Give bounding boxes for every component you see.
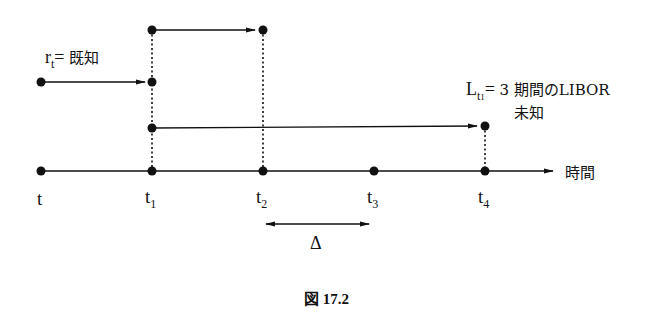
tick-sub: 1 — [150, 197, 156, 211]
tick-t2: t2 — [256, 186, 267, 208]
timeline-diagram — [0, 0, 670, 312]
point-t1-top — [148, 26, 157, 35]
interval-label: Δ — [310, 233, 322, 254]
point-t4-libor — [481, 122, 490, 131]
point-t4 — [481, 167, 490, 176]
libor-symbol: L — [466, 79, 477, 99]
point-t — [37, 167, 46, 176]
tick-sub: 4 — [483, 197, 489, 211]
point-t1-known — [148, 78, 157, 87]
libor-desc: 3 期間のLIBOR — [500, 81, 610, 99]
equals-sign: = — [485, 79, 495, 99]
tick-t: t — [37, 188, 42, 210]
known-rate-subscript: t — [51, 57, 54, 71]
arrow-libor — [152, 126, 477, 128]
point-t2 — [259, 167, 268, 176]
tick-sub: 2 — [261, 197, 267, 211]
point-t1-libor — [148, 124, 157, 133]
point-t3 — [370, 167, 379, 176]
tick-t4: t4 — [478, 186, 489, 208]
known-rate-label: rt= 既知 — [45, 46, 99, 68]
libor-subscript-1: 1 — [480, 92, 485, 102]
equals-sign: = — [54, 47, 64, 67]
axis-label: 時間 — [565, 161, 595, 182]
libor-unknown-label: 未知 — [514, 101, 544, 122]
figure-caption: 図 17.2 — [304, 287, 349, 308]
known-rate-desc: 既知 — [69, 49, 99, 67]
tick-sub: 3 — [372, 197, 378, 211]
tick-main: t — [37, 188, 42, 209]
libor-subscript: t1 — [477, 89, 485, 103]
tick-t1: t1 — [145, 186, 156, 208]
libor-label: Lt1= 3 期間のLIBOR — [466, 78, 610, 100]
point-t2-top — [259, 26, 268, 35]
point-t-known — [37, 78, 46, 87]
tick-t3: t3 — [367, 186, 378, 208]
point-t1 — [148, 167, 157, 176]
